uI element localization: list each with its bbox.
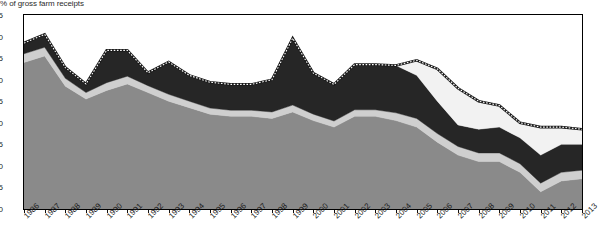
x-tick-label: 2002 <box>353 201 372 220</box>
x-tick-label: 1991 <box>125 201 144 220</box>
x-tick-label: 2008 <box>477 201 496 220</box>
x-tick-label: 1987 <box>43 201 62 220</box>
x-tick-label: 2001 <box>332 201 351 220</box>
x-tick-label: 2006 <box>435 201 454 220</box>
x-tick-label: 2009 <box>497 201 516 220</box>
x-tick-label: 1992 <box>146 201 165 220</box>
x-tick-label: 1990 <box>105 201 124 220</box>
x-tick-label: 1995 <box>208 201 227 220</box>
x-tick-label: 1986 <box>22 201 41 220</box>
x-tick-label: 2010 <box>518 201 537 220</box>
x-tick-label: 1996 <box>229 201 248 220</box>
x-tick-label: 2007 <box>456 201 475 220</box>
x-tick-label: 2000 <box>311 201 330 220</box>
x-tick-label: 1994 <box>187 201 206 220</box>
x-tick-label: 2013 <box>580 201 599 220</box>
x-tick-label: 2012 <box>559 201 578 220</box>
x-tick-label: 1988 <box>63 201 82 220</box>
x-tick-label: 1993 <box>167 201 186 220</box>
x-tick-label: 1999 <box>291 201 310 220</box>
x-tick-label: 1997 <box>249 201 268 220</box>
x-tick-label: 1989 <box>84 201 103 220</box>
x-tick-label: 2011 <box>539 202 558 221</box>
x-tick-label: 2004 <box>394 201 413 220</box>
x-tick-label: 2005 <box>415 201 434 220</box>
x-tick-label: 1998 <box>270 201 289 220</box>
x-tick-label: 2003 <box>373 201 392 220</box>
